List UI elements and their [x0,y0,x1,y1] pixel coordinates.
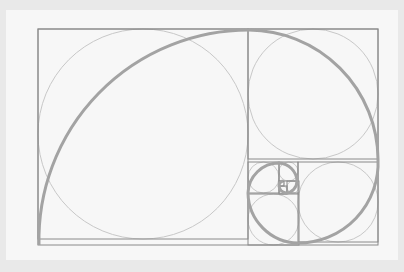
inscribed-circle-2 [298,162,378,242]
golden-spiral [39,30,378,245]
inscribed-circle-0 [38,29,248,239]
golden-spiral-diagram [0,0,404,272]
square-0 [38,29,248,239]
outer-golden-rectangle [38,29,378,245]
diagram-frame [0,0,404,272]
inscribed-circles [38,29,378,245]
fibonacci-squares [38,29,378,245]
